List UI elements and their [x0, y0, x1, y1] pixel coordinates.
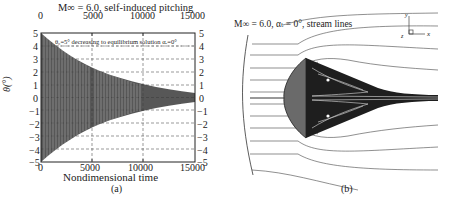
caption-a: (a): [111, 184, 122, 194]
caption-b: (b): [341, 184, 353, 194]
x-tick-bottom-15000: 15000: [180, 163, 205, 173]
axis-y-label: y: [405, 10, 408, 20]
axis-z-label: z: [401, 31, 403, 41]
coordinate-axes-icon: [409, 16, 425, 34]
panel-a-pitching-chart: M∞ = 6.0, self-induced pitching 0 5000 1…: [0, 0, 230, 198]
streamline-plot: [228, 0, 455, 198]
panel-b-streamlines: M∞ = 6.0, αₜ = 0°, stream lines y x z (b…: [228, 0, 455, 198]
axis-x-label: x: [427, 29, 430, 39]
oscillation-envelope: [41, 33, 195, 162]
x-axis-label: Nondimensional time: [63, 172, 158, 182]
wake-recirculation: [306, 58, 438, 138]
streamline-title: M∞ = 6.0, αₜ = 0°, stream lines: [234, 19, 352, 29]
x-tick-bottom-0: 0: [38, 163, 43, 173]
capsule-heatshield: [284, 58, 306, 138]
chart-annotation: θ₀=5° decreasing to equilibrium solution…: [55, 37, 177, 47]
